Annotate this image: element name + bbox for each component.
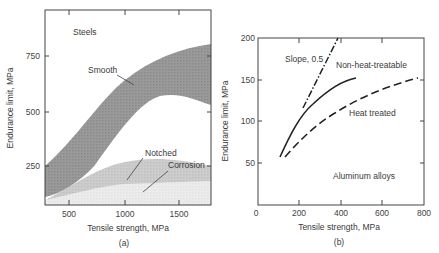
y-tick-200: 200 bbox=[241, 33, 255, 43]
aluminum-alloys-label: Aluminum alloys bbox=[333, 171, 395, 181]
non-heat-treatable-curve bbox=[280, 78, 356, 157]
x-tick-1500: 1500 bbox=[170, 209, 189, 219]
x-tick-800: 800 bbox=[417, 208, 431, 218]
x-tick-200: 200 bbox=[292, 208, 306, 218]
notched-label: Notched bbox=[145, 148, 177, 158]
x-tick-500: 500 bbox=[62, 209, 76, 219]
panel-label-b: (b) bbox=[334, 237, 345, 247]
x-tick-400: 400 bbox=[334, 208, 348, 218]
figure: 750 500 250 500 1000 1500 Tensile streng… bbox=[0, 0, 439, 253]
y-tick-150: 150 bbox=[241, 75, 255, 85]
chart-b: 200 150 100 50 0 200 400 600 800 Tensile… bbox=[220, 33, 431, 247]
x-axis-label-a: Tensile strength, MPa bbox=[87, 223, 169, 233]
panel-label-a: (a) bbox=[119, 238, 130, 248]
x-tick-1000: 1000 bbox=[116, 209, 135, 219]
slope-label: Slope, 0.5 bbox=[285, 54, 324, 64]
y-tick-750: 750 bbox=[26, 51, 40, 61]
y-tick-100: 100 bbox=[241, 116, 255, 126]
heat-treated-label: Heat treated bbox=[349, 108, 396, 118]
y-tick-50: 50 bbox=[246, 158, 256, 168]
y-axis-label-a: Endurance limit, MPa bbox=[5, 67, 15, 148]
steels-label: Steels bbox=[73, 27, 97, 37]
y-tick-500: 500 bbox=[26, 107, 40, 117]
y-axis-label-b: Endurance limit, MPa bbox=[220, 80, 230, 161]
x-tick-600: 600 bbox=[375, 208, 389, 218]
x-tick-0: 0 bbox=[254, 208, 259, 218]
corrosion-label: Corrosion bbox=[168, 160, 205, 170]
chart-a: 750 500 250 500 1000 1500 Tensile streng… bbox=[5, 10, 211, 248]
non-heat-treatable-label: Non-heat-treatable bbox=[336, 60, 407, 70]
y-tick-250: 250 bbox=[26, 161, 40, 171]
smooth-label: Smooth bbox=[88, 65, 118, 75]
x-axis-label-b: Tensile strength, MPa bbox=[298, 222, 380, 232]
